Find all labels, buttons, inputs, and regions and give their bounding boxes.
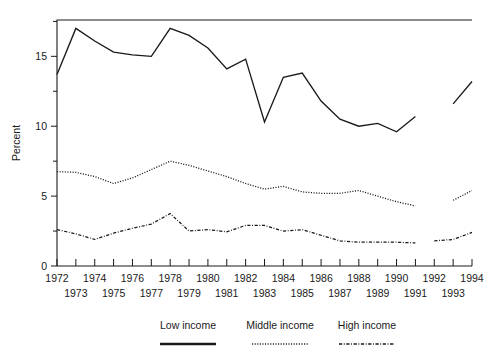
legend-label-low-income: Low income (160, 319, 216, 331)
axis-frame-line (57, 20, 472, 266)
x-tick-label-lower: 1989 (366, 287, 390, 299)
x-tick-label-upper: 1972 (45, 272, 69, 284)
x-tick-label-upper: 1980 (196, 272, 220, 284)
x-tick-label-upper: 1984 (272, 272, 296, 284)
y-tick-label: 15 (35, 50, 47, 62)
data-series-group (57, 28, 472, 243)
y-axis-title: Percent (10, 125, 22, 161)
x-tick-label-lower: 1973 (64, 287, 88, 299)
legend-label-high-income: High income (338, 319, 397, 331)
x-tick-label-lower: 1987 (328, 287, 352, 299)
series-line-high-income (57, 214, 472, 243)
chart-legend: Low incomeMiddle incomeHigh income (160, 319, 396, 344)
legend-label-middle-income: Middle income (246, 319, 314, 331)
x-tick-label-lower: 1977 (140, 287, 164, 299)
y-tick-label: 5 (41, 190, 47, 202)
x-tick-label-lower: 1985 (291, 287, 315, 299)
chart-figure: 051015 197219741976197819801982198419861… (0, 0, 490, 353)
x-tick-label-upper: 1994 (460, 272, 484, 284)
x-tick-label-lower: 1979 (177, 287, 201, 299)
x-tick-label-upper: 1992 (423, 272, 447, 284)
y-tick-label: 10 (35, 120, 47, 132)
x-axis: 1972197419761978198019821984198619881990… (45, 259, 484, 299)
y-axis: 051015 (35, 21, 57, 272)
x-tick-label-lower: 1991 (404, 287, 428, 299)
x-tick-label-lower: 1993 (441, 287, 465, 299)
x-tick-label-upper: 1988 (347, 272, 371, 284)
chart-svg: 051015 197219741976197819801982198419861… (0, 0, 490, 353)
plot-frame (57, 20, 472, 266)
series-line-middle-income (57, 161, 472, 206)
x-tick-label-lower: 1983 (253, 287, 277, 299)
x-tick-label-lower: 1975 (102, 287, 126, 299)
series-line-low-income (57, 28, 472, 131)
x-tick-label-lower: 1981 (215, 287, 239, 299)
x-tick-label-upper: 1982 (234, 272, 258, 284)
y-tick-label: 0 (41, 260, 47, 272)
x-tick-label-upper: 1990 (385, 272, 409, 284)
x-tick-label-upper: 1976 (121, 272, 145, 284)
x-tick-label-upper: 1978 (159, 272, 183, 284)
x-tick-label-upper: 1986 (309, 272, 333, 284)
x-tick-label-upper: 1974 (83, 272, 107, 284)
